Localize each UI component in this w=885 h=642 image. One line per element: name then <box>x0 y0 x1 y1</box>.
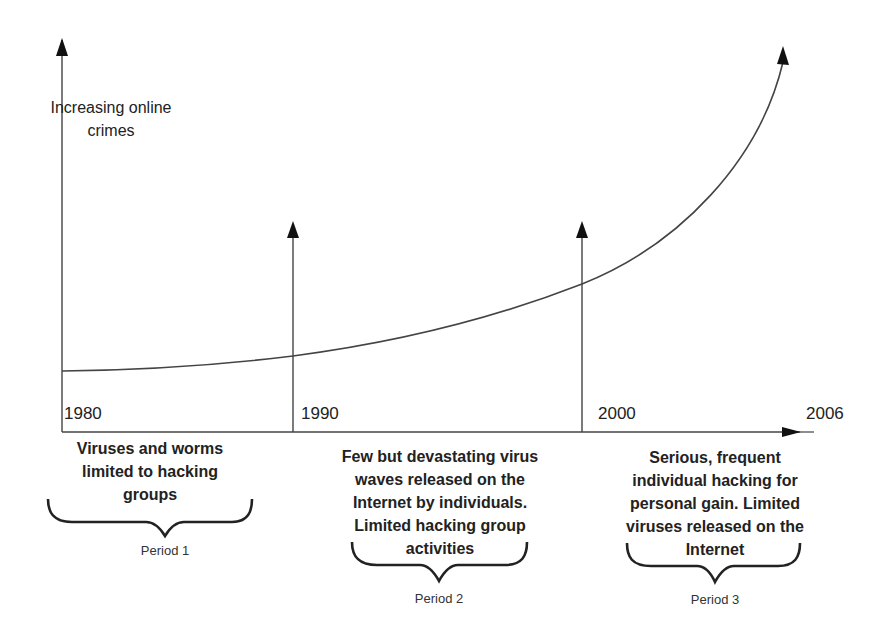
marker-2000-arrow-icon <box>576 221 588 238</box>
marker-1990-arrow-icon <box>287 221 299 238</box>
y-axis-arrow-icon <box>56 38 68 56</box>
year-label-1980: 1980 <box>64 404 102 424</box>
period-1-description: Viruses and worms limited to hacking gro… <box>50 437 250 506</box>
period-2-description: Few but devastating virus waves released… <box>330 445 550 560</box>
period-3-description: Serious, frequent individual hacking for… <box>605 446 825 561</box>
x-axis-arrow-icon <box>782 427 801 437</box>
y-axis-label-line1: Increasing online <box>36 96 186 119</box>
period-1-label: Period 1 <box>115 543 215 558</box>
growth-curve-arrow-icon <box>777 46 789 65</box>
period-3-label: Period 3 <box>665 592 765 607</box>
year-label-1990: 1990 <box>301 404 339 424</box>
year-label-2006: 2006 <box>806 404 844 424</box>
y-axis-label-line2: crimes <box>36 119 186 142</box>
y-axis-label: Increasing online crimes <box>36 96 186 142</box>
year-label-2000: 2000 <box>598 404 636 424</box>
period-2-label: Period 2 <box>389 591 489 606</box>
